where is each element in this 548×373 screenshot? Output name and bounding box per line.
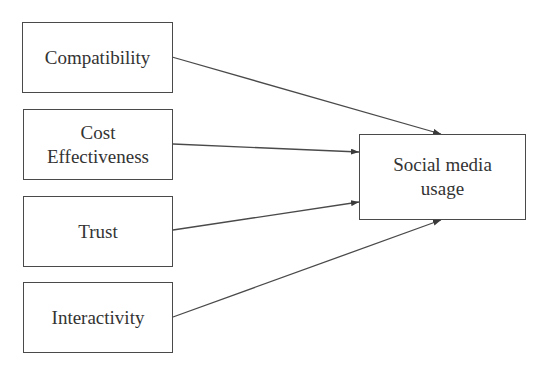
node-label: Interactivity (52, 306, 145, 330)
node-compatibility: Compatibility (22, 22, 173, 93)
node-label-line-1: Cost (47, 121, 149, 145)
node-cost-effectiveness: Cost Effectiveness (23, 109, 173, 180)
arrow-cost-effectiveness-to-usage (173, 144, 359, 152)
node-social-media-usage: Social media usage (359, 134, 526, 220)
node-label-line-2: usage (393, 177, 492, 201)
node-label-line-1: Social media (393, 153, 492, 177)
node-trust: Trust (23, 196, 173, 267)
arrow-interactivity-to-usage (173, 220, 441, 317)
node-label: Trust (78, 220, 117, 244)
arrow-trust-to-usage (173, 202, 359, 230)
node-label: Compatibility (45, 46, 151, 70)
path-diagram: Compatibility Cost Effectiveness Trust I… (0, 0, 548, 373)
node-interactivity: Interactivity (23, 282, 173, 353)
arrow-compatibility-to-usage (172, 57, 441, 134)
node-label-line-2: Effectiveness (47, 145, 149, 169)
